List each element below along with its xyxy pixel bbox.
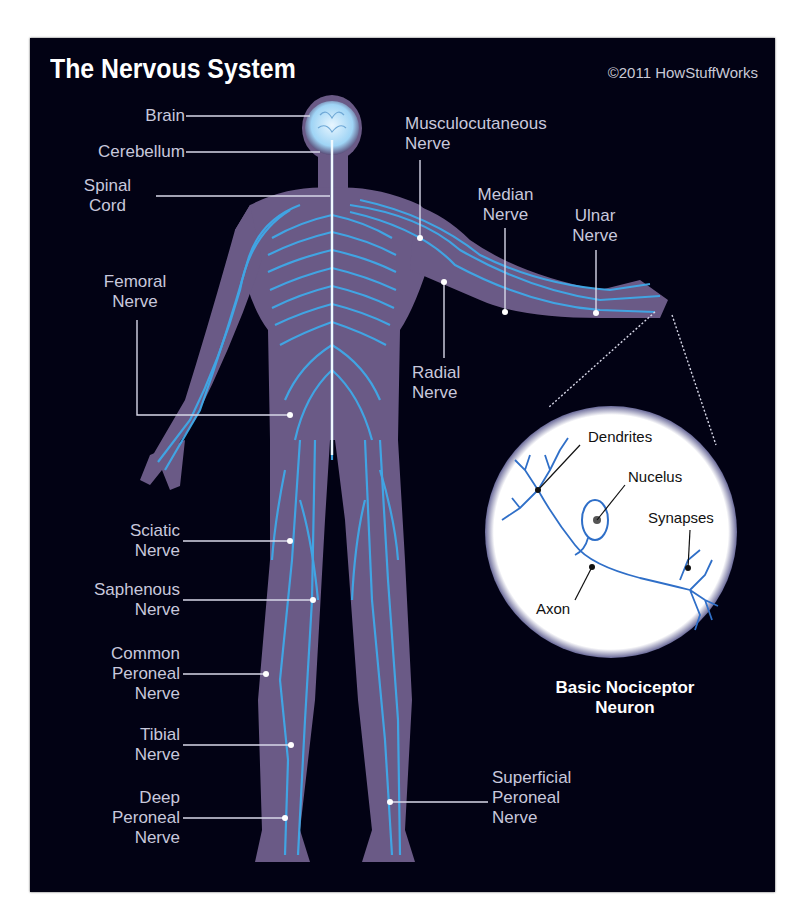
label-superficial-peroneal-nerve: Superficial Peroneal Nerve [492, 768, 571, 828]
label-cerebellum: Cerebellum [60, 142, 185, 162]
neuron-label-dendrites: Dendrites [588, 428, 652, 445]
neuron-label-axon: Axon [536, 600, 570, 617]
neuron-label-nucleus: Nucelus [628, 468, 682, 485]
label-ulnar-nerve: Ulnar Nerve [560, 206, 630, 246]
label-tibial-nerve: Tibial Nerve [60, 725, 180, 765]
diagram-title: The Nervous System [50, 54, 296, 85]
label-common-peroneal-nerve: Common Peroneal Nerve [60, 644, 180, 704]
copyright-credit: ©2011 HowStuffWorks [608, 64, 758, 81]
label-saphenous-nerve: Saphenous Nerve [40, 580, 180, 620]
label-femoral-nerve: Femoral Nerve [90, 272, 180, 312]
label-deep-peroneal-nerve: Deep Peroneal Nerve [60, 788, 180, 848]
label-radial-nerve: Radial Nerve [412, 363, 460, 403]
label-sciatic-nerve: Sciatic Nerve [60, 521, 180, 561]
label-median-nerve: Median Nerve [463, 185, 548, 225]
label-brain: Brain [90, 106, 185, 126]
neuron-caption: Basic Nociceptor Neuron [520, 678, 730, 718]
neuron-label-synapses: Synapses [648, 509, 714, 526]
body-illustration [0, 0, 800, 921]
label-spinal-cord: Spinal Cord [60, 176, 155, 216]
label-musculocutaneous-nerve: Musculocutaneous Nerve [405, 114, 547, 154]
